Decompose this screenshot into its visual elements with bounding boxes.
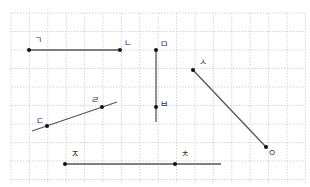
point-label: ㅅ [199, 57, 207, 67]
point-marker [173, 162, 177, 166]
point-label: ㅈ [71, 149, 79, 159]
point-marker [100, 105, 104, 109]
point-label: ㅁ [160, 39, 168, 49]
figures-layer [29, 50, 266, 164]
point-marker [154, 48, 158, 52]
point-label: ㅂ [160, 99, 168, 109]
point-marker [154, 105, 158, 109]
point-label: ㅇ [268, 148, 276, 158]
point-label: ㄴ [124, 38, 132, 48]
points-layer: ㄱㄴㅁㅂㅅㅇㄷㄹㅈㅊ [27, 35, 276, 166]
geometry-diagram: ㄱㄴㅁㅂㅅㅇㄷㄹㅈㅊ [0, 0, 310, 187]
line-digeut-rieul [32, 102, 117, 131]
point-marker [27, 48, 31, 52]
point-marker [63, 162, 67, 166]
point-marker [45, 124, 49, 128]
point-label: ㄱ [34, 35, 42, 45]
point-label: ㄹ [91, 95, 99, 105]
segment-siot-ieung [193, 70, 266, 147]
point-marker [118, 48, 122, 52]
dotted-grid [11, 13, 305, 183]
point-label: ㄷ [36, 116, 44, 126]
point-label: ㅊ [181, 149, 189, 159]
point-marker [191, 68, 195, 72]
